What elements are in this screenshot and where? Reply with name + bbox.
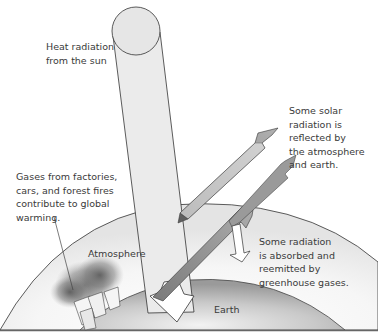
label-absorbed-radiation: Some radiation is absorbed and reemitted… [259,235,349,289]
label-atmosphere: Atmosphere [88,247,146,261]
label-sun-radiation: Heat radiation from the sun [46,40,114,67]
label-reflected-radiation: Some solar radiation is reflected by the… [289,104,365,172]
label-earth: Earth [214,303,239,317]
label-gases: Gases from factories, cars, and forest f… [16,170,117,224]
sun [112,7,160,55]
